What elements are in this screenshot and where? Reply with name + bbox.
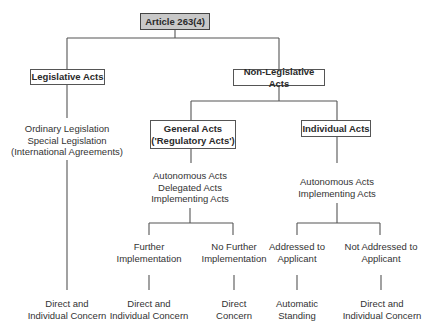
legislative-types: Ordinary Legislation Special Legislation… [11,123,123,158]
connector-lines [0,0,429,330]
legislative-label: Legislative Acts [32,71,104,83]
general-acts-label: General Acts ('Regulatory Acts') [151,123,234,147]
not-addressed-standing: Direct and Individual Concern [343,298,422,321]
node-general-acts: General Acts ('Regulatory Acts') [150,120,236,149]
individual-acts-label: Individual Acts [302,123,369,135]
node-non-legislative-acts: Non-Legislative Acts [233,69,325,86]
node-individual-acts: Individual Acts [301,120,371,137]
node-legislative-acts: Legislative Acts [30,69,105,85]
non-legislative-label: Non-Legislative Acts [234,66,324,90]
addressed-standing: Automatic Standing [276,298,318,321]
not-addressed-to-applicant: Not Addressed to Applicant [345,241,418,264]
further-implementation: Further Implementation [117,241,182,264]
no-further-implementation: No Further Implementation [202,241,267,264]
root-label: Article 263(4) [145,16,205,28]
no-further-standing: Direct Concern [216,298,252,321]
individual-acts-types: Autonomous Acts Implementing Acts [298,176,376,199]
further-standing: Direct and Individual Concern [110,298,189,321]
general-acts-types: Autonomous Acts Delegated Acts Implement… [151,170,229,205]
addressed-to-applicant: Addressed to Applicant [269,241,325,264]
root-node-article-263-4: Article 263(4) [140,13,210,30]
legislative-standing: Direct and Individual Concern [28,298,107,321]
